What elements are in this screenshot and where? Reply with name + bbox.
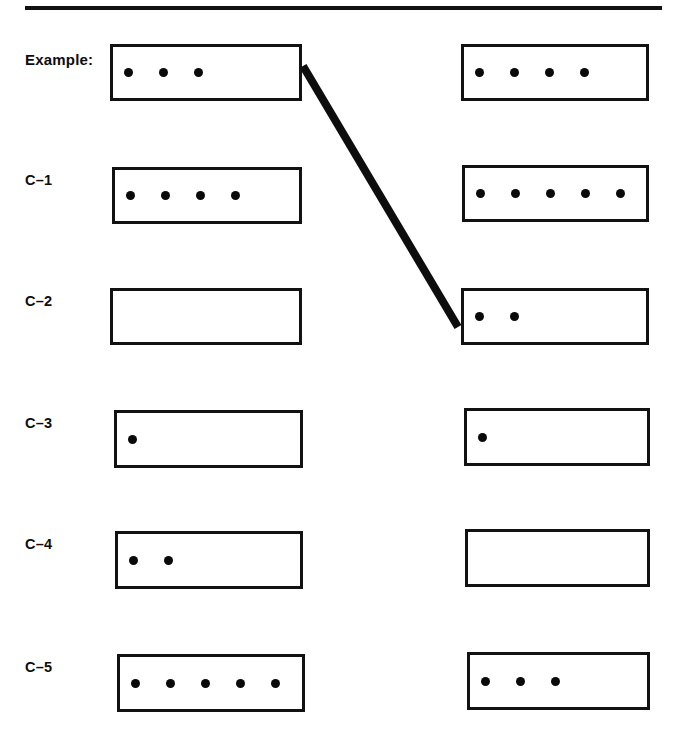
dot — [510, 68, 519, 77]
right-box-c-5[interactable] — [467, 652, 650, 710]
right-dots-c-1 — [465, 168, 646, 219]
dot — [511, 189, 520, 198]
left-box-c-1[interactable] — [112, 167, 302, 224]
left-dots-c-1 — [115, 170, 299, 221]
dot — [236, 679, 245, 688]
worksheet-page: Example: C–1 C–2 C–3 C–4 C–5 — [0, 0, 681, 749]
dot — [128, 435, 137, 444]
row-label-c-2: C–2 — [25, 294, 52, 309]
dot — [616, 189, 625, 198]
dot — [478, 433, 487, 442]
row-label-example: Example: — [25, 52, 93, 67]
dot — [231, 191, 240, 200]
dot — [581, 189, 590, 198]
right-box-example[interactable] — [461, 44, 649, 101]
dot — [126, 191, 135, 200]
top-horizontal-rule — [25, 6, 662, 10]
dot — [545, 68, 554, 77]
dot — [271, 679, 280, 688]
right-box-c-2[interactable] — [461, 288, 649, 345]
right-dots-c-3 — [467, 411, 647, 463]
dot — [194, 68, 203, 77]
dot — [159, 68, 168, 77]
dot — [164, 556, 173, 565]
dot — [510, 312, 519, 321]
right-box-c-4[interactable] — [465, 529, 650, 587]
left-dots-c-4 — [118, 534, 300, 586]
dot — [161, 191, 170, 200]
dot — [546, 189, 555, 198]
left-dots-c-3 — [117, 413, 300, 465]
row-label-c-3: C–3 — [25, 416, 52, 431]
row-label-c-1: C–1 — [25, 173, 52, 188]
right-dots-example — [464, 47, 646, 98]
dot — [166, 679, 175, 688]
dot — [580, 68, 589, 77]
dot — [551, 677, 560, 686]
dot — [476, 189, 485, 198]
dot — [516, 677, 525, 686]
left-box-c-2[interactable] — [110, 288, 302, 345]
right-box-c-1[interactable] — [462, 165, 649, 222]
row-label-c-5: C–5 — [25, 660, 52, 675]
left-box-example[interactable] — [110, 44, 302, 101]
left-dots-c-5 — [120, 657, 302, 709]
left-box-c-5[interactable] — [117, 654, 305, 712]
right-box-c-3[interactable] — [464, 408, 650, 466]
dot — [481, 677, 490, 686]
dot — [131, 679, 140, 688]
left-dots-example — [113, 47, 299, 98]
dot — [475, 68, 484, 77]
dot — [129, 556, 138, 565]
left-box-c-3[interactable] — [114, 410, 303, 468]
dot — [475, 312, 484, 321]
left-box-c-4[interactable] — [115, 531, 303, 589]
connector-line[interactable] — [303, 66, 458, 327]
dot — [196, 191, 205, 200]
right-dots-c-5 — [470, 655, 647, 707]
right-dots-c-2 — [464, 291, 646, 342]
connector-line-layer — [0, 0, 681, 749]
row-label-c-4: C–4 — [25, 537, 52, 552]
dot — [201, 679, 210, 688]
dot — [124, 68, 133, 77]
